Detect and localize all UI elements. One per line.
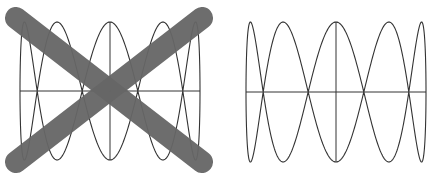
lissajous-crossed-svg — [0, 0, 220, 178]
lissajous-correct-svg — [218, 0, 438, 178]
lissajous-figure-correct — [218, 0, 438, 178]
lissajous-figure-crossed-out — [0, 0, 220, 178]
